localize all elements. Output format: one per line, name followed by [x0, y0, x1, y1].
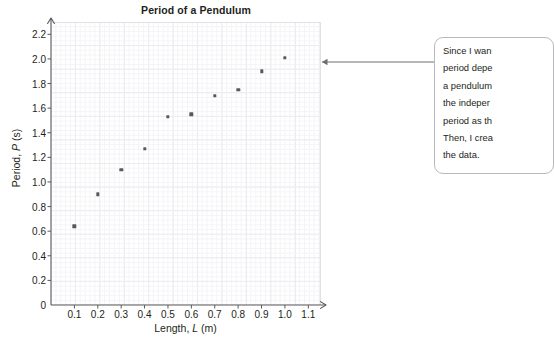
x-tick-label: 1.1	[291, 309, 325, 320]
y-tick-label: 0	[16, 300, 46, 311]
x-axis-title: Length, L (m)	[51, 322, 320, 334]
callout-leader-arrow	[322, 59, 434, 65]
grid-major	[51, 22, 320, 305]
callout-line: the data.	[443, 146, 506, 163]
callout-line: Since I wan	[443, 42, 506, 59]
callout-line: the indeper	[443, 94, 506, 111]
callout-line: Then, I crea	[443, 129, 506, 146]
callout-line: period as th	[443, 112, 506, 129]
y-axis-title: Period, P (s)	[10, 98, 22, 218]
x-axis-tick-labels: 0.10.20.30.40.50.60.70.80.91.01.1	[51, 309, 326, 323]
callout-line: a pendulum	[443, 77, 506, 94]
y-axis-title-prefix: Period,	[10, 151, 22, 187]
callout-arrowhead	[322, 59, 328, 65]
y-axis-title-variable: P	[10, 144, 22, 151]
callout-text: Since I wanperiod depea pendulumthe inde…	[443, 42, 506, 164]
y-tick-label: 2.0	[16, 53, 46, 64]
x-axis-title-suffix: (m)	[198, 322, 217, 334]
y-tick-label: 0.4	[16, 250, 46, 261]
y-tick-label: 2.2	[16, 29, 46, 40]
plot-top-edge	[51, 22, 320, 23]
y-axis-title-suffix: (s)	[10, 129, 22, 144]
x-axis-title-prefix: Length,	[154, 322, 192, 334]
y-tick-label: 1.8	[16, 78, 46, 89]
callout-line: period depe	[443, 59, 506, 76]
y-tick-label: 0.6	[16, 226, 46, 237]
y-tick-label: 0.2	[16, 275, 46, 286]
chart-title: Period of a Pendulum	[56, 4, 336, 16]
plot-area	[51, 22, 321, 305]
